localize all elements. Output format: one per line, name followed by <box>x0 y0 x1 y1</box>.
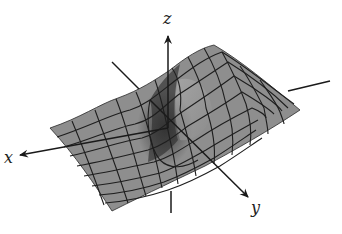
x-axis-label: x <box>4 148 13 167</box>
y-axis-label: y <box>250 198 261 217</box>
x-axis-negative-segment <box>288 81 330 91</box>
surface <box>50 45 300 211</box>
z-axis-label: z <box>162 9 172 28</box>
surface-plot-figure: z x y <box>0 0 342 234</box>
